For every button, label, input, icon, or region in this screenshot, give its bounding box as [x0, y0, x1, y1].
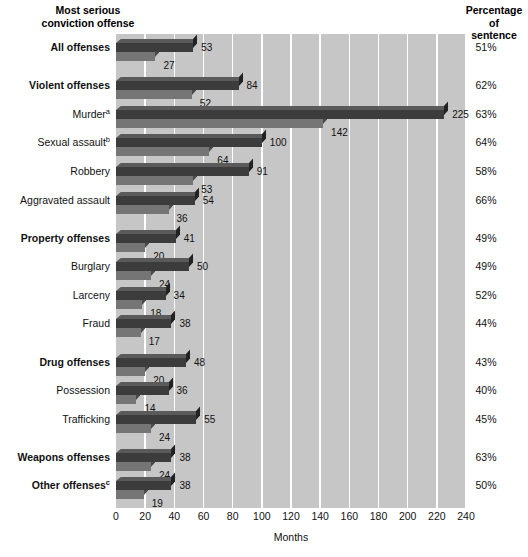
footnote-marker: a — [106, 106, 110, 115]
bar-sentence-length — [116, 110, 444, 119]
bar-sentence-length — [116, 358, 186, 367]
value-label-sentence: 48 — [194, 357, 205, 368]
row-label-property-offenses: Property offenses — [0, 232, 110, 244]
chart-row: Violent offenses845262% — [0, 76, 528, 105]
bar-sentence-length — [116, 167, 249, 176]
bar-front-face — [116, 205, 169, 214]
row-label-murder: Murdera — [0, 108, 110, 120]
right-column-header: Percentageofsentence — [460, 4, 528, 42]
percentage-of-sentence: 44% — [460, 317, 512, 329]
bar-front-face — [116, 262, 189, 271]
bar-group: 5524 — [116, 410, 466, 440]
chart-row: All offenses532751% — [0, 38, 528, 67]
bar-front-face — [116, 52, 155, 61]
value-label-served: 24 — [159, 432, 170, 443]
bar-front-face — [116, 147, 209, 156]
bar-side-face — [171, 473, 175, 486]
bar-group: 5436 — [116, 191, 466, 221]
bar-time-served — [116, 147, 209, 156]
bar-time-served — [116, 367, 145, 376]
bar-front-face — [116, 481, 171, 490]
bar-front-face — [116, 138, 262, 147]
bar-sentence-length — [116, 386, 169, 395]
bar-group: 4120 — [116, 229, 466, 259]
bar-front-face — [116, 453, 171, 462]
footnote-marker: b — [106, 135, 110, 144]
bar-front-face — [116, 328, 141, 337]
row-label-possession: Possession — [0, 384, 110, 396]
x-axis: 020406080100120140160180200220240 — [0, 510, 528, 526]
chart-row: Drug offenses482043% — [0, 353, 528, 382]
bar-time-served — [116, 424, 151, 433]
value-label-sentence: 100 — [270, 137, 287, 148]
value-label-sentence: 50 — [197, 261, 208, 272]
x-axis-label: Months — [116, 531, 466, 543]
bar-front-face — [116, 300, 142, 309]
bar-front-face — [116, 90, 192, 99]
bar-group: 225142 — [116, 105, 466, 135]
bar-front-face — [116, 358, 186, 367]
value-label-sentence: 38 — [179, 452, 190, 463]
bar-group: 3614 — [116, 381, 466, 411]
row-label-fraud: Fraud — [0, 317, 110, 329]
percentage-of-sentence: 63% — [460, 108, 512, 120]
bar-sentence-length — [116, 262, 189, 271]
bar-time-served — [116, 119, 323, 128]
row-label-drug-offenses: Drug offenses — [0, 356, 110, 368]
bar-front-face — [116, 110, 444, 119]
chart-row: Burglary502449% — [0, 257, 528, 286]
percentage-of-sentence: 49% — [460, 260, 512, 272]
bar-front-face — [116, 243, 145, 252]
chart-row: Property offenses412049% — [0, 229, 528, 258]
bar-sentence-length — [116, 196, 195, 205]
bar-time-served — [116, 205, 169, 214]
chart-row: Trafficking552445% — [0, 410, 528, 439]
bar-group: 10064 — [116, 133, 466, 163]
row-label-larceny: Larceny — [0, 289, 110, 301]
bar-front-face — [116, 386, 169, 395]
bar-time-served — [116, 328, 141, 337]
row-label-robbery: Robbery — [0, 165, 110, 177]
bar-side-face — [189, 254, 193, 267]
row-label-weapons-offenses: Weapons offenses — [0, 451, 110, 463]
chart-row: Weapons offenses382463% — [0, 448, 528, 477]
bar-front-face — [116, 234, 176, 243]
value-label-sentence: 84 — [247, 80, 258, 91]
bar-front-face — [116, 424, 151, 433]
bar-group: 8452 — [116, 76, 466, 106]
bar-group: 3817 — [116, 314, 466, 344]
percentage-of-sentence: 45% — [460, 413, 512, 425]
bar-front-face — [116, 119, 323, 128]
percentage-of-sentence: 51% — [460, 41, 512, 53]
percentage-of-sentence: 43% — [460, 356, 512, 368]
row-label-violent-offenses: Violent offenses — [0, 79, 110, 91]
value-label-sentence: 41 — [184, 233, 195, 244]
percentage-of-sentence: 58% — [460, 165, 512, 177]
chart-root: Most seriousconviction offense Percentag… — [0, 0, 528, 557]
chart-row: Murdera22514263% — [0, 105, 528, 134]
chart-row: Robbery915358% — [0, 162, 528, 191]
bar-front-face — [116, 367, 145, 376]
percentage-of-sentence: 49% — [460, 232, 512, 244]
bar-sentence-length — [116, 234, 176, 243]
bar-sentence-length — [116, 453, 171, 462]
percentage-of-sentence: 62% — [460, 79, 512, 91]
percentage-of-sentence: 66% — [460, 194, 512, 206]
bar-time-served — [116, 90, 192, 99]
value-label-sentence: 54 — [203, 195, 214, 206]
bar-group: 3824 — [116, 448, 466, 478]
bar-time-served — [116, 243, 145, 252]
value-label-served: 19 — [152, 498, 163, 509]
row-label-trafficking: Trafficking — [0, 413, 110, 425]
bar-side-face — [193, 35, 197, 48]
bar-front-face — [116, 415, 196, 424]
bar-sentence-length — [116, 138, 262, 147]
value-label-sentence: 91 — [257, 166, 268, 177]
bar-time-served — [116, 271, 151, 280]
row-label-aggravated-assault: Aggravated assault — [0, 194, 110, 206]
bar-side-face — [171, 444, 175, 457]
left-column-header: Most seriousconviction offense — [0, 4, 176, 29]
percentage-of-sentence: 64% — [460, 136, 512, 148]
bar-front-face — [116, 176, 193, 185]
bar-side-face — [262, 130, 266, 143]
